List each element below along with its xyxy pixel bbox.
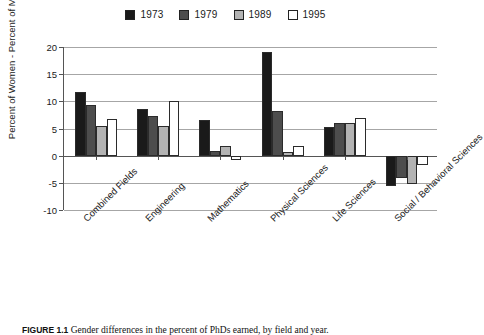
bar <box>220 146 231 156</box>
y-tick-label: 0 <box>25 152 57 161</box>
figure-number: FIGURE 1.1 <box>22 325 68 335</box>
gridline <box>64 101 437 102</box>
x-tick-mark <box>283 156 284 160</box>
bar <box>407 156 418 185</box>
bar <box>334 123 345 156</box>
bar <box>169 101 180 155</box>
bar <box>324 127 335 155</box>
bar <box>158 126 169 156</box>
bar <box>75 92 86 156</box>
zero-line <box>64 156 437 157</box>
legend-label-1989: 1989 <box>249 10 272 20</box>
bar <box>355 118 366 155</box>
bar <box>293 146 304 156</box>
bar <box>396 156 407 179</box>
legend-swatch-1979 <box>179 10 189 20</box>
legend-label-1995: 1995 <box>303 10 326 20</box>
legend-swatch-1989 <box>234 10 244 20</box>
y-tick-label: -5 <box>25 179 57 188</box>
x-tick-mark <box>220 156 221 160</box>
bar <box>345 123 356 156</box>
bar <box>386 156 397 186</box>
y-tick-label: 5 <box>25 125 57 134</box>
bar <box>86 105 97 156</box>
gridline <box>64 74 437 75</box>
y-tick-label: -10 <box>25 206 57 215</box>
bar <box>417 156 428 166</box>
y-tick-label: 15 <box>25 70 57 79</box>
legend-swatch-1995 <box>288 10 298 20</box>
legend-entry: 1973 <box>125 10 163 20</box>
y-tick-label: 10 <box>25 97 57 106</box>
legend-entry: 1979 <box>179 10 217 20</box>
bar <box>262 52 273 155</box>
legend-label-1979: 1979 <box>194 10 217 20</box>
bar <box>272 111 283 156</box>
legend-swatch-1973 <box>125 10 135 20</box>
figure-caption-text: Gender differences in the percent of PhD… <box>71 325 329 335</box>
bar <box>148 116 159 156</box>
y-tick-label: 20 <box>25 43 57 52</box>
x-tick-mark <box>407 156 408 160</box>
bar <box>283 152 294 155</box>
chart-legend: 1973 1979 1989 1995 <box>0 10 451 20</box>
x-tick-mark <box>345 156 346 160</box>
gridline <box>64 47 437 48</box>
bar <box>137 109 148 155</box>
bar <box>199 120 210 155</box>
legend-label-1973: 1973 <box>140 10 163 20</box>
y-axis-title: Percent of Women - Percent of Men <box>6 0 17 179</box>
bar <box>107 119 118 155</box>
gridline <box>64 210 437 211</box>
x-tick-mark <box>96 156 97 160</box>
x-tick-mark <box>158 156 159 160</box>
legend-entry: 1989 <box>234 10 272 20</box>
bar <box>210 151 221 155</box>
gridline <box>64 129 437 130</box>
legend-entry: 1995 <box>288 10 326 20</box>
bar <box>96 126 107 155</box>
y-tick-mark <box>59 210 63 211</box>
figure-caption: FIGURE 1.1 Gender differences in the per… <box>22 325 442 335</box>
bar <box>231 156 242 160</box>
